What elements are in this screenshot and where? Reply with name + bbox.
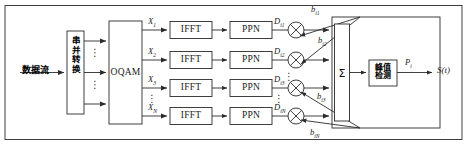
peak-detection-line2: 检测 xyxy=(370,73,396,82)
signal-label-b1: bi1 xyxy=(311,5,320,14)
vertical-dots-d: ⋮ xyxy=(274,95,284,103)
block-diagram-figure: 数据流 串并转换 ⋮ ⋮ OQAM X1 X2 X3 XN ⋮ IFFT IFF… xyxy=(0,0,467,145)
signal-label-xN: XN xyxy=(148,103,157,112)
signal-label-x1: X1 xyxy=(148,17,156,26)
signal-label-x3: X3 xyxy=(148,75,156,84)
signal-label-bN: biN xyxy=(310,128,320,137)
signal-label-d2: Di2 xyxy=(274,47,285,56)
output-label-p: Pi xyxy=(405,58,412,67)
signal-label-d1: Di1 xyxy=(274,17,285,26)
vertical-dots-x: ⋮ xyxy=(147,95,157,103)
vertical-dots-sp-1: ⋮ xyxy=(90,49,100,57)
signal-label-b2: bi2 xyxy=(318,36,327,45)
serial-to-parallel-label: 串并转换 xyxy=(70,36,79,74)
vertical-dots-sp-2: ⋮ xyxy=(90,81,100,89)
ppn-block-1: PPN xyxy=(242,25,260,35)
ifft-block-1: IFFT xyxy=(181,25,201,35)
ifft-block-2: IFFT xyxy=(181,55,201,65)
ppn-block-2: PPN xyxy=(242,55,260,65)
ppn-block-4: PPN xyxy=(242,111,260,121)
ifft-block-3: IFFT xyxy=(181,83,201,93)
peak-detection-label: 峰值 检测 xyxy=(370,64,396,82)
signal-label-d3: Di3 xyxy=(274,75,285,84)
ifft-block-4: IFFT xyxy=(181,111,201,121)
summation-label: Σ xyxy=(339,67,346,78)
data-stream-label: 数据流 xyxy=(22,66,49,75)
output-label-st: S(t) xyxy=(437,66,450,75)
signal-label-b3: bi3 xyxy=(317,92,326,101)
signal-label-dN: DiN xyxy=(274,103,285,112)
oqam-block-label: OQAM xyxy=(111,68,141,78)
vertical-dots-b: ⋮ xyxy=(284,73,294,81)
ppn-block-3: PPN xyxy=(242,83,260,93)
signal-label-x2: X2 xyxy=(148,47,156,56)
